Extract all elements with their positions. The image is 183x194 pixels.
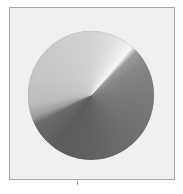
bottom-tick-mark: [77, 181, 78, 185]
conic-gradient-disc: [28, 31, 154, 160]
canvas-stage: Conical (angular) gradient disc on a dit…: [0, 0, 183, 194]
